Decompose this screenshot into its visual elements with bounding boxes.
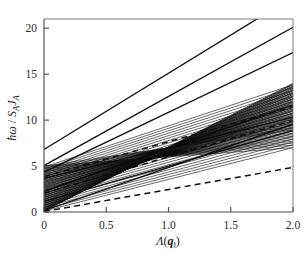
x-axis-label: Λ(q‖) bbox=[155, 234, 180, 250]
spin-wave-dispersion-figure: 00.51.01.52.0 05101520 Λ(q‖) ħω / SAJA bbox=[0, 0, 306, 256]
figure-background bbox=[0, 0, 306, 256]
y-ticklabel-3: 15 bbox=[26, 68, 38, 80]
x-ticklabel-4: 2.0 bbox=[286, 219, 301, 231]
x-axis-label-text: Λ(q‖) bbox=[155, 234, 180, 250]
y-ticklabel-1: 5 bbox=[31, 160, 37, 172]
x-ticklabel-3: 1.5 bbox=[224, 219, 239, 231]
y-ticklabel-4: 20 bbox=[26, 22, 38, 34]
y-axis-label: ħω / SAJA bbox=[5, 94, 21, 140]
y-ticklabel-0: 0 bbox=[31, 206, 37, 218]
x-ticklabel-1: 0.5 bbox=[99, 219, 114, 231]
x-ticklabel-2: 1.0 bbox=[161, 219, 176, 231]
y-axis-label-text: ħω / SAJA bbox=[5, 94, 21, 140]
x-ticklabel-0: 0 bbox=[41, 219, 47, 231]
dispersion-plot-svg: 00.51.01.52.0 05101520 Λ(q‖) ħω / SAJA bbox=[0, 0, 306, 256]
y-ticklabel-2: 10 bbox=[26, 114, 38, 126]
